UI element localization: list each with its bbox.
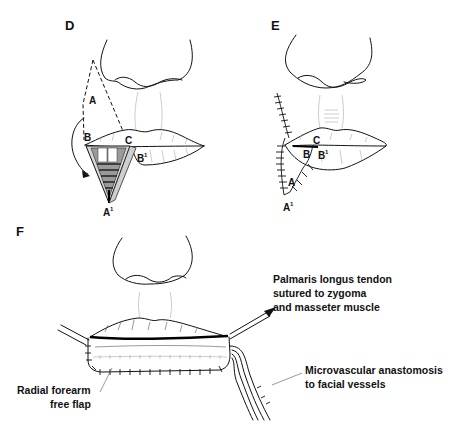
panel-e-lips bbox=[285, 128, 387, 170]
panel-f-tendon-right bbox=[230, 307, 276, 339]
panel-e-point-a: A bbox=[288, 177, 295, 188]
panel-e-philtrum-shading bbox=[324, 110, 339, 122]
panel-d-upper-lip bbox=[85, 130, 204, 147]
panel-f-flap-callout-line1: Radial forearm bbox=[17, 384, 91, 396]
panel-e-label: E bbox=[271, 18, 280, 33]
panel-d-point-b1-sup: 1 bbox=[144, 152, 148, 158]
panel-f-nose bbox=[113, 236, 192, 284]
panel-f-philtrum bbox=[139, 292, 172, 318]
panel-f: F bbox=[16, 224, 443, 420]
panel-f-tendon-left bbox=[58, 325, 89, 345]
panel-f-tendon-callout-line2: sutured to zygoma bbox=[273, 287, 367, 299]
panel-e: E C B bbox=[271, 18, 387, 213]
panel-f-tendon-callout-line1: Palmaris longus tendon bbox=[273, 273, 392, 285]
panel-f-flap bbox=[85, 337, 230, 375]
panel-e-philtrum bbox=[319, 95, 344, 128]
panel-e-point-b: B bbox=[303, 149, 310, 160]
panel-d-nose bbox=[101, 40, 193, 89]
panel-f-vessels bbox=[230, 346, 270, 420]
panel-d-point-a: A bbox=[89, 95, 96, 106]
panel-d-philtrum bbox=[135, 92, 162, 130]
panel-d-point-c: C bbox=[125, 135, 132, 146]
panel-d-point-b: B bbox=[84, 132, 91, 143]
panel-d-point-a1-sup: 1 bbox=[110, 206, 114, 212]
panel-f-vessel-callout-line2: to facial vessels bbox=[305, 378, 386, 390]
panel-f-label: F bbox=[16, 224, 24, 239]
panel-e-point-c: C bbox=[313, 135, 320, 146]
panel-f-flap-callout-line2: free flap bbox=[50, 398, 91, 410]
panel-e-point-b1-sup: 1 bbox=[325, 149, 329, 155]
panel-f-tendon-callout-line3: and masseter muscle bbox=[273, 301, 380, 313]
panel-d-flap-outline-right bbox=[93, 60, 123, 131]
panel-f-vessel-leader bbox=[272, 373, 302, 385]
panel-d: D bbox=[65, 18, 204, 218]
surgical-illustration: D bbox=[0, 0, 452, 441]
panel-f-vessel-callout-line1: Microvascular anastomosis bbox=[305, 364, 443, 376]
panel-e-point-a1-sup: 1 bbox=[290, 201, 294, 207]
panel-e-nose bbox=[285, 35, 371, 88]
panel-f-upper-lip bbox=[90, 318, 228, 339]
panel-e-suture-upper bbox=[274, 93, 292, 138]
panel-d-label: D bbox=[65, 18, 74, 33]
